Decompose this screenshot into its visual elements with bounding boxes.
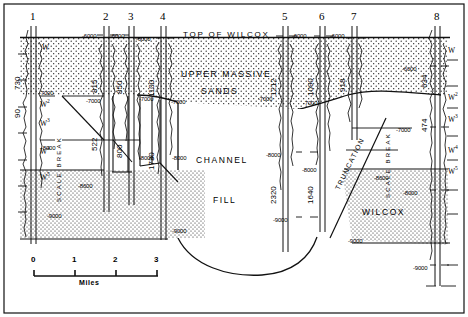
scale-bar [34, 270, 158, 276]
scale-tick-1: 1 [72, 256, 76, 264]
unit-marker: W4 [448, 145, 458, 154]
well-6-lower-thickness: 1640 [307, 186, 315, 204]
depth-label: -9000 [273, 217, 287, 223]
depth-label: -8000 [302, 167, 316, 173]
depth-label: -8000 [172, 155, 186, 161]
well-7-upper-thickness: 918 [339, 79, 347, 92]
scale-tick-2: 2 [113, 256, 117, 264]
depth-label: -7000 [171, 99, 185, 105]
unit-marker: W [448, 47, 455, 55]
depth-label: -9000 [47, 213, 61, 219]
depth-label: -9000 [413, 265, 427, 271]
depth-label: -7000 [396, 127, 410, 133]
well-5-lower-thickness: 2320 [270, 186, 278, 204]
well-number-2: 2 [103, 11, 109, 22]
depth-label: -6000 [330, 33, 344, 39]
depth-label: -8000 [266, 152, 280, 158]
well-3-lower-thickness: 800 [116, 145, 124, 158]
well-number-3: 3 [128, 11, 134, 22]
well-8-upper-thickness: 634 [421, 75, 429, 88]
well-number-4: 4 [160, 11, 166, 22]
depth-label: -8600 [78, 183, 92, 189]
depth-label: -7000 [303, 100, 317, 106]
scale-break-label-left: SCALE BREAK [56, 136, 62, 202]
cross-section-figure: 1 2 3 4 5 6 7 8 TOP OF WILCOX UPPER MASS… [0, 0, 468, 317]
well-number-8: 8 [434, 11, 440, 22]
well-1-lower-thickness: 90 [14, 109, 22, 118]
channel-fill-label-1: CHANNEL [196, 156, 248, 165]
depth-label: -7000 [86, 98, 100, 104]
upper-massive-sands-label-1: UPPER MASSIVE [181, 70, 271, 79]
depth-label: -7000 [39, 90, 53, 96]
unit-marker: W5 [448, 166, 458, 175]
channel-fill-label-2: FILL [213, 196, 236, 205]
well-2-upper-thickness: 815 [91, 80, 99, 93]
depth-label: -7000 [139, 96, 153, 102]
depth-label: -7000 [258, 96, 272, 102]
upper-massive-sands-label-2: SANDS [201, 87, 238, 96]
well-number-7: 7 [351, 11, 357, 22]
depth-label: -6000 [402, 66, 416, 72]
unit-marker: W3 [448, 114, 458, 123]
top-of-wilcox-label: TOP OF WILCOX [183, 31, 270, 39]
unit-marker: W2 [448, 92, 458, 101]
unit-marker: W2 [40, 99, 50, 108]
unit-marker: W4 [40, 146, 50, 155]
depth-label: -8000 [403, 190, 417, 196]
depth-label: -6000 [292, 33, 306, 39]
well-5-upper-thickness: 1212 [270, 78, 278, 96]
scale-tick-3: 3 [154, 256, 158, 264]
depth-label: -9000 [172, 228, 186, 234]
wilcox-label: WILCOX [362, 208, 405, 217]
well-2-lower-thickness: 522 [91, 138, 99, 151]
scale-tick-0: 0 [31, 256, 35, 264]
well-3-upper-thickness: 850 [116, 81, 124, 94]
depth-label: -6000 [82, 33, 96, 39]
depth-label: -9000 [348, 238, 362, 244]
unit-marker: W3 [40, 118, 50, 127]
well-number-1: 1 [30, 11, 36, 22]
well-4-upper-thickness: 1100 [148, 80, 156, 97]
well-number-5: 5 [282, 11, 288, 22]
well-number-6: 6 [319, 11, 325, 22]
scale-bar-caption: Miles [79, 279, 100, 286]
well-6-upper-thickness: 1090 [307, 78, 315, 96]
depth-label: -8000 [139, 155, 153, 161]
unit-marker: W5 [40, 172, 50, 181]
depth-label: -6000 [136, 36, 150, 42]
depth-label: -8600 [374, 175, 388, 181]
depth-label: -6000 [110, 33, 124, 39]
scale-break-label-right: SCALE BREAK [385, 132, 391, 198]
well-8-lower-thickness: 474 [421, 119, 429, 132]
well-1-upper-thickness: 730 [14, 77, 22, 90]
unit-marker: W [42, 44, 49, 52]
